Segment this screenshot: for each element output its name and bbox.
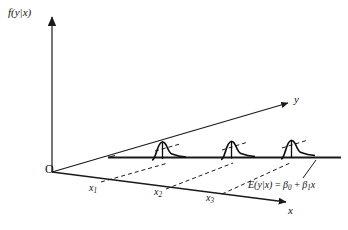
vertical-axis-label: f(y|x) (8, 7, 31, 18)
depth-axis-y (52, 103, 288, 172)
figure-canvas (0, 0, 348, 230)
tick-label-x1-subscript: 1 (93, 187, 97, 195)
origin-label: O (45, 163, 54, 175)
equation-x: x (311, 179, 315, 190)
regression-distribution-figure: f(y|x) O y x x1 x2 x3 E(y|x) = β0 + β1x (0, 0, 348, 230)
equation-lhs: E(y|x) (248, 179, 272, 190)
tick-label-x1: x1 (89, 183, 97, 195)
projector-line-x1 (101, 163, 168, 182)
projector-line-x2 (166, 163, 233, 189)
regression-equation-label: E(y|x) = β0 + β1x (248, 180, 315, 192)
tick-label-x2: x2 (154, 187, 162, 199)
horizontal-axis-label: x (288, 205, 293, 216)
equation-equals: = (272, 179, 283, 190)
tick-label-x2-subscript: 2 (158, 191, 162, 199)
equation-leader-line (303, 160, 316, 178)
equation-plus: + (292, 179, 303, 190)
tick-label-x3-subscript: 3 (210, 197, 214, 205)
tick-label-x3: x3 (206, 193, 214, 205)
depth-axis-label: y (294, 94, 299, 105)
